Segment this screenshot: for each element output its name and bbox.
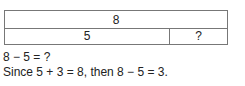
explanation-text: 8 − 5 = ? Since 5 + 3 = 8, then 8 − 5 = … [3,50,168,80]
parts-row: 5 ? [5,28,227,44]
bar-model-diagram: 8 5 ? [4,10,228,45]
explanation-line: Since 5 + 3 = 8, then 8 − 5 = 3. [3,65,168,80]
known-part-value: 5 [5,28,170,44]
whole-row: 8 [5,11,227,29]
whole-value: 8 [5,11,227,28]
unknown-part-value: ? [170,28,227,44]
question-line: 8 − 5 = ? [3,50,168,65]
